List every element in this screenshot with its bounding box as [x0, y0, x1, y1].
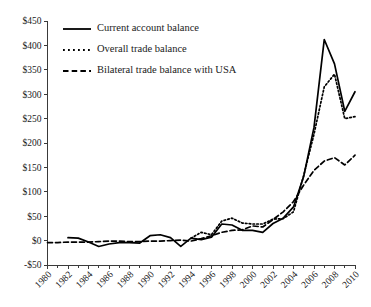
x-tick-label: 2008	[320, 269, 341, 290]
y-tick-label: $300	[23, 90, 42, 100]
x-tick-label: 2006	[299, 269, 320, 290]
x-tick-label: 1984	[74, 269, 95, 290]
x-tick-label: 1996	[197, 269, 218, 290]
x-tick-label: 1980	[33, 269, 54, 290]
y-axis-ticks	[44, 21, 48, 265]
chart-legend: Current account balanceOverall trade bal…	[63, 22, 237, 75]
legend-label: Bilateral trade balance with USA	[97, 64, 237, 75]
x-tick-label: 2002	[258, 269, 279, 290]
y-tick-label: $150	[23, 163, 42, 173]
legend-label: Overall trade balance	[97, 43, 187, 54]
y-tick-label: $100	[23, 187, 42, 197]
series-line	[191, 74, 355, 238]
y-axis-group: -$50$0$50$100$150$200$250$300$350$400$45…	[23, 16, 48, 270]
y-tick-label: $400	[23, 41, 42, 51]
y-tick-label: $350	[23, 65, 42, 75]
x-tick-label: 1990	[135, 269, 156, 290]
x-tick-label: 2000	[238, 269, 259, 290]
x-axis-tick-labels: 1980198219841986198819901992199419961998…	[33, 269, 361, 290]
chart-canvas: -$50$0$50$100$150$200$250$300$350$400$45…	[0, 0, 371, 307]
y-axis-tick-labels: -$50$0$50$100$150$200$250$300$350$400$45…	[23, 16, 42, 270]
y-tick-label: -$50	[24, 260, 42, 270]
y-tick-label: $50	[27, 212, 42, 222]
x-tick-label: 1998	[217, 269, 238, 290]
y-tick-label: $200	[23, 138, 42, 148]
x-tick-label: 1982	[53, 269, 74, 290]
x-tick-label: 2004	[279, 269, 300, 290]
line-chart-figure: -$50$0$50$100$150$200$250$300$350$400$45…	[0, 0, 371, 307]
x-axis-group: 1980198219841986198819901992199419961998…	[33, 265, 361, 290]
x-tick-label: 2010	[340, 269, 361, 290]
x-tick-label: 1988	[115, 269, 136, 290]
legend-label: Current account balance	[97, 22, 199, 33]
y-tick-label: $0	[32, 236, 42, 246]
y-tick-label: $250	[23, 114, 42, 124]
series-line	[48, 155, 356, 242]
y-tick-label: $450	[23, 16, 42, 26]
x-axis-ticks	[48, 265, 356, 269]
x-tick-label: 1986	[94, 269, 115, 290]
x-tick-label: 1992	[156, 269, 177, 290]
x-tick-label: 1994	[176, 269, 197, 290]
